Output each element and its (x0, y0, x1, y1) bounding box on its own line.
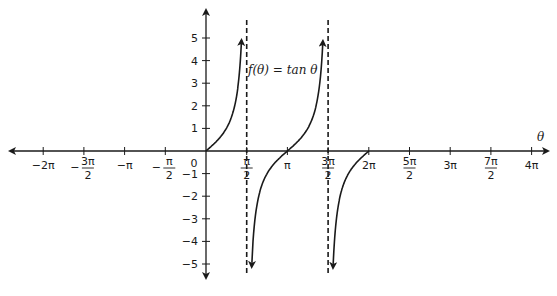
function-label: f(θ) = tan θ (247, 63, 318, 77)
x-tick-label: π (243, 155, 250, 168)
svg-text:2: 2 (243, 169, 250, 182)
x-tick-label: 3π (443, 159, 457, 172)
x-tick-label: 2π (362, 159, 376, 172)
x-tick-label: π (284, 159, 291, 172)
y-tick-label: −1 (182, 168, 198, 181)
tangent-chart: −2π−3π2−π−π20π2π3π22π5π23π7π24π −5−4−3−2… (0, 0, 557, 296)
y-tick-label: −4 (182, 235, 198, 248)
svg-text:−: − (152, 161, 161, 174)
y-tick-label: −5 (182, 258, 198, 271)
x-tick-label: π (166, 155, 173, 168)
axes (8, 10, 548, 280)
y-tick-label: 4 (191, 55, 198, 68)
y-tick-label: −2 (182, 190, 198, 203)
y-tick-label: 1 (191, 122, 198, 135)
svg-text:2: 2 (325, 169, 332, 182)
x-tick-label: 3π (81, 155, 95, 168)
svg-text:2: 2 (166, 169, 173, 182)
svg-text:−: − (70, 161, 79, 174)
tan-branch-1 (206, 40, 242, 151)
y-tick-label: −3 (182, 213, 198, 226)
x-tick-label: 7π (484, 155, 498, 168)
svg-text:2: 2 (487, 169, 494, 182)
x-tick-label: 4π (525, 159, 539, 172)
y-tick-label: 5 (191, 32, 198, 45)
y-tick-label: 2 (191, 100, 198, 113)
y-tick-label: 3 (191, 77, 198, 90)
x-axis-label: θ (537, 130, 545, 144)
svg-text:2: 2 (84, 169, 91, 182)
x-tick-label: −2π (32, 159, 55, 172)
svg-text:2: 2 (406, 169, 413, 182)
x-tick-label: 3π (321, 155, 335, 168)
x-tick-label: −π (117, 159, 133, 172)
x-tick-label: 5π (403, 155, 417, 168)
